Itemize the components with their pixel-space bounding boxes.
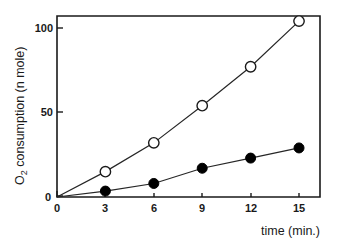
oxygen-consumption-line-chart: 100 50 0 0 3 6 9 12 15 time (min.) O2 co… xyxy=(0,0,347,242)
y-tick-label-50: 50 xyxy=(41,106,53,118)
data-point xyxy=(197,163,207,173)
data-point xyxy=(197,100,207,110)
data-point xyxy=(149,178,159,188)
x-tick-label-6: 6 xyxy=(151,202,157,214)
data-point xyxy=(246,153,256,163)
data-point xyxy=(294,143,304,153)
y-axis-title-pre: O xyxy=(13,175,27,185)
y-axis-title: O2 consumption (n mole) xyxy=(13,47,29,185)
y-tick-label-0: 0 xyxy=(45,191,51,203)
data-point xyxy=(294,16,304,26)
x-tick-label-0: 0 xyxy=(54,202,60,214)
x-axis-title: time (min.) xyxy=(261,224,320,238)
x-tick-label-3: 3 xyxy=(102,202,108,214)
x-tick-label-15: 15 xyxy=(293,202,305,214)
data-point xyxy=(100,186,110,196)
y-tick-label-100: 100 xyxy=(35,22,53,34)
svg-text:O2 consumption (n mole): O2 consumption (n mole) xyxy=(13,47,29,185)
data-point xyxy=(149,138,159,148)
data-point xyxy=(245,62,255,72)
x-tick-label-12: 12 xyxy=(245,202,257,214)
y-axis-title-post: consumption (n mole) xyxy=(13,47,27,171)
data-point xyxy=(100,166,110,176)
x-tick-label-9: 9 xyxy=(199,202,205,214)
figure-root: 100 50 0 0 3 6 9 12 15 time (min.) O2 co… xyxy=(0,0,347,242)
